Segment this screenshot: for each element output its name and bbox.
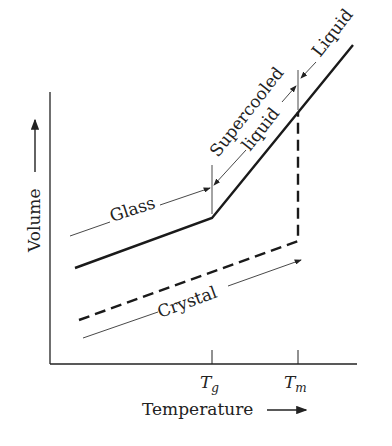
- liquid-arrow: [301, 62, 316, 78]
- phase-diagram: Glass Supercooled liquid Liquid Crystal …: [0, 0, 392, 446]
- glass-label: Glass: [107, 192, 158, 225]
- liquid-label: Liquid: [307, 5, 357, 61]
- y-axis-label: Volume: [24, 188, 44, 253]
- tg-label: Tg: [200, 372, 219, 395]
- crystal-leader-left: [83, 312, 158, 338]
- glass-liquid-curve: [75, 45, 353, 268]
- x-axis-label: Temperature: [142, 399, 253, 419]
- supercooled-arrow-right: [282, 86, 296, 102]
- crystal-arrow: [228, 260, 301, 286]
- glass-leader-left: [70, 222, 110, 236]
- tm-label: Tm: [284, 372, 307, 395]
- glass-arrow: [160, 188, 210, 205]
- crystal-label: Crystal: [155, 282, 220, 322]
